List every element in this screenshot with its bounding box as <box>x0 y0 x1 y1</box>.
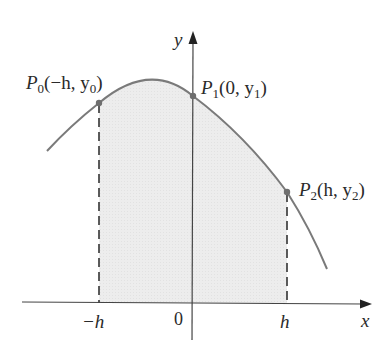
origin-label: 0 <box>174 309 183 329</box>
tick-label-neg-h: −h <box>82 311 104 332</box>
point-label-p2: P2(h, y2) <box>298 179 365 203</box>
point-label-p0: P0(−h, y0) <box>25 72 102 96</box>
tick-label-h: h <box>280 311 290 332</box>
simpson-diagram: y x 0 −h h P0(−h, y0) P1(0, y1) P2(h, y2… <box>0 0 390 360</box>
x-axis-label: x <box>360 310 370 331</box>
y-axis-arrow-icon <box>189 31 198 44</box>
point-p1 <box>190 93 196 99</box>
point-p0 <box>96 100 102 106</box>
y-axis-label: y <box>172 29 183 50</box>
x-axis-arrow-icon <box>360 300 372 309</box>
point-p2 <box>284 189 290 195</box>
point-label-p1: P1(0, y1) <box>200 77 267 101</box>
